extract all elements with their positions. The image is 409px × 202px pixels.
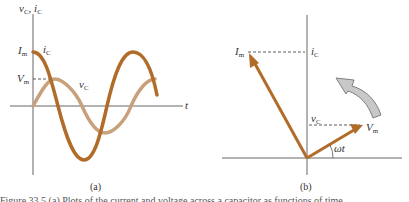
rotation-arrow-icon [336, 78, 381, 118]
panel-a-vm-label: Vm [17, 73, 29, 86]
panel-b-vc-label: vC [311, 113, 321, 126]
panel-a-ic-curve-label: iC [43, 44, 51, 57]
panel-b-vm-label: Vm [366, 122, 378, 135]
im-phasor [254, 62, 307, 158]
omega-t-arc [330, 145, 333, 158]
figure-canvas [0, 0, 409, 202]
panel-b-caption: (b) [300, 182, 312, 192]
vm-phasor [307, 130, 354, 158]
panel-b-ic-label: iC [311, 46, 319, 59]
panel-a-t-axis-label: t [185, 100, 188, 111]
figure-caption: Figure 33.5 (a) Plots of the current and… [0, 196, 409, 202]
panel-a-caption: (a) [90, 182, 101, 192]
panel-b-angle-label: ωt [334, 143, 345, 154]
panel-a-im-label: Im [18, 45, 27, 58]
panel-a-y-axis-label: vC, iC [19, 3, 42, 16]
panel-b-im-label: Im [235, 46, 244, 59]
panel-a-vc-curve-label: vC [79, 79, 89, 92]
